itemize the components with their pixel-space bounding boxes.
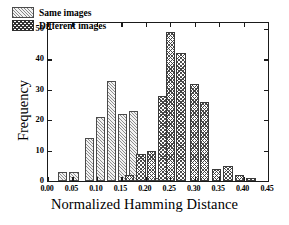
x-tick-top-5 xyxy=(170,23,171,27)
bar-diff-5 xyxy=(176,53,185,181)
y-tick-right-5 xyxy=(264,29,268,30)
y-tick-1 xyxy=(48,151,52,152)
x-tick-label-6: 0.30 xyxy=(187,184,200,193)
x-tick-label-3: 0.15 xyxy=(114,184,127,193)
x-tick-8 xyxy=(244,177,245,181)
legend-item-same: Same images xyxy=(12,7,106,18)
bar-same-2 xyxy=(85,138,94,181)
x-tick-label-0: 0.00 xyxy=(40,184,53,193)
y-tick-0 xyxy=(48,181,52,182)
x-tick-label-2: 0.10 xyxy=(89,184,102,193)
y-tick-2 xyxy=(48,120,52,121)
legend-item-different: Different images xyxy=(12,20,106,31)
y-tick-right-4 xyxy=(264,59,268,60)
x-tick-label-7: 0.35 xyxy=(212,184,225,193)
x-tick-label-4: 0.20 xyxy=(138,184,151,193)
bar-same-5 xyxy=(118,114,127,181)
x-tick-label-8: 0.40 xyxy=(236,184,249,193)
bar-same-3 xyxy=(96,117,105,181)
x-tick-top-6 xyxy=(195,23,196,27)
legend-label-same-images: Same images xyxy=(39,8,92,18)
bar-diff-7 xyxy=(200,102,209,181)
x-tick-top-3 xyxy=(121,23,122,27)
y-tick-right-2 xyxy=(264,120,268,121)
x-tick-5 xyxy=(170,177,171,181)
chart-figure: 0.000.050.100.150.200.250.300.350.400.45… xyxy=(0,0,289,225)
x-tick-top-8 xyxy=(244,23,245,27)
y-tick-4 xyxy=(48,59,52,60)
x-tick-2 xyxy=(97,177,98,181)
x-tick-4 xyxy=(146,177,147,181)
legend-label-different-images: Different images xyxy=(39,21,106,31)
x-tick-label-9: 0.45 xyxy=(260,184,273,193)
bar-same-0 xyxy=(58,172,67,181)
bar-same-1 xyxy=(69,172,78,181)
x-tick-top-7 xyxy=(219,23,220,27)
x-tick-3 xyxy=(121,177,122,181)
x-axis-title: Normalized Hamming Distance xyxy=(0,196,289,213)
bar-diff-11 xyxy=(246,178,255,181)
legend-swatch-different-images xyxy=(12,20,34,31)
x-tick-top-4 xyxy=(146,23,147,27)
legend-swatch-same-images xyxy=(12,7,34,18)
bar-diff-1 xyxy=(136,154,145,181)
x-tick-7 xyxy=(219,177,220,181)
bar-same-4 xyxy=(107,81,116,181)
y-tick-right-0 xyxy=(264,181,268,182)
x-tick-label-1: 0.05 xyxy=(65,184,78,193)
y-axis-title: Frequency xyxy=(15,46,32,176)
x-tick-6 xyxy=(195,177,196,181)
y-tick-right-1 xyxy=(264,151,268,152)
bar-diff-4 xyxy=(166,32,175,181)
bar-diff-6 xyxy=(190,84,199,181)
bars-layer xyxy=(48,23,268,181)
bar-diff-2 xyxy=(147,151,156,181)
y-tick-label-0: 0 xyxy=(28,175,44,185)
x-tick-top-9 xyxy=(268,23,269,27)
chart-legend: Same images Different images xyxy=(12,7,106,31)
plot-area xyxy=(47,22,269,182)
bar-diff-9 xyxy=(223,166,232,181)
y-tick-right-3 xyxy=(264,90,268,91)
x-tick-1 xyxy=(72,177,73,181)
x-tick-label-5: 0.25 xyxy=(163,184,176,193)
x-tick-9 xyxy=(268,177,269,181)
bar-diff-0 xyxy=(125,175,134,181)
y-tick-3 xyxy=(48,90,52,91)
